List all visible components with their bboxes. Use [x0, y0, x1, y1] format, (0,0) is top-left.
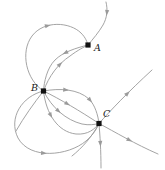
direction-arrow — [48, 112, 55, 119]
trajectory-curve — [44, 91, 100, 124]
node-label-c: C — [103, 108, 111, 119]
trajectory-curve — [26, 24, 88, 91]
trajectory-curve — [88, 2, 107, 45]
node-label-a: A — [93, 42, 101, 53]
trajectory-curve — [44, 91, 100, 125]
direction-arrow-layer — [41, 10, 133, 156]
phase-portrait-canvas: ABC — [0, 0, 165, 170]
trajectory-curve — [44, 91, 100, 134]
direction-arrow — [63, 87, 69, 92]
node-label-b: B — [30, 82, 38, 93]
trajectory-curve — [15, 91, 99, 153]
direction-arrow — [62, 50, 69, 56]
direction-arrow — [64, 101, 71, 108]
direction-arrow — [104, 10, 109, 16]
equilibrium-node-a — [85, 42, 90, 47]
direction-arrow — [126, 137, 133, 143]
equilibrium-node-c — [96, 121, 101, 126]
equilibrium-node-b — [41, 88, 46, 93]
equilibrium-node-layer: ABC — [30, 42, 111, 126]
phase-portrait-figure: ABC — [0, 0, 165, 170]
direction-arrow — [44, 23, 51, 29]
direction-arrow — [98, 141, 102, 147]
direction-arrow — [41, 151, 47, 156]
